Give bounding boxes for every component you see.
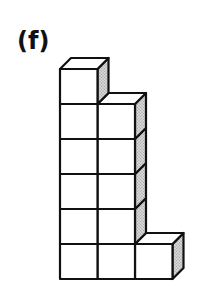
cube-front-face [98,209,136,244]
cube-front-face [135,244,173,279]
cube-front-face [98,104,136,139]
cube-front-face [60,174,98,209]
cube-stack-diagram [0,0,218,298]
cube-front-face [60,139,98,174]
cube-front-face [60,104,98,139]
cube-front-face [60,209,98,244]
cube-front-face [98,139,136,174]
cube-front-face [98,174,136,209]
cube-layer [60,58,184,279]
cube-front-face [60,244,98,279]
cube-front-face [98,244,136,279]
cube-front-face [60,69,98,104]
